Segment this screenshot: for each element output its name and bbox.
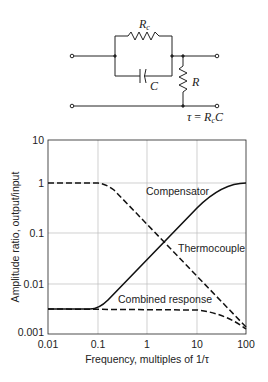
svg-text:10: 10 [32, 134, 44, 146]
svg-text:0.01: 0.01 [38, 338, 59, 350]
x-tick-labels: 0.01 0.1 1 10 100 [38, 338, 255, 350]
r-label: R [191, 75, 200, 89]
compensator-annotation: Compensator [146, 185, 210, 197]
svg-text:1: 1 [38, 177, 44, 189]
svg-text:1: 1 [144, 338, 150, 350]
y-axis-label: Amplitude ratio, output/input [9, 172, 21, 303]
svg-text:10: 10 [191, 338, 203, 350]
svg-text:0.001: 0.001 [18, 326, 44, 338]
circuit-diagram [70, 32, 219, 108]
tau-equation: τ = RcC [187, 110, 224, 125]
svg-text:0.01: 0.01 [24, 278, 45, 290]
thermocouple-annotation: Thermocouple [178, 242, 245, 254]
combined-response-annotation: Combined response [118, 293, 212, 305]
svg-text:100: 100 [237, 338, 255, 350]
svg-text:0.1: 0.1 [91, 338, 106, 350]
y-tick-labels: 10 1 0.1 0.01 0.001 [18, 134, 44, 338]
c-label: C [150, 79, 159, 93]
figure: Rc C R τ = RcC 10 1 0.1 0.01 0.001 0.01 … [0, 0, 268, 382]
rc-label: Rc [138, 17, 150, 32]
x-axis-label: Frequency, multiples of 1/τ [85, 353, 209, 365]
svg-text:0.1: 0.1 [29, 227, 44, 239]
